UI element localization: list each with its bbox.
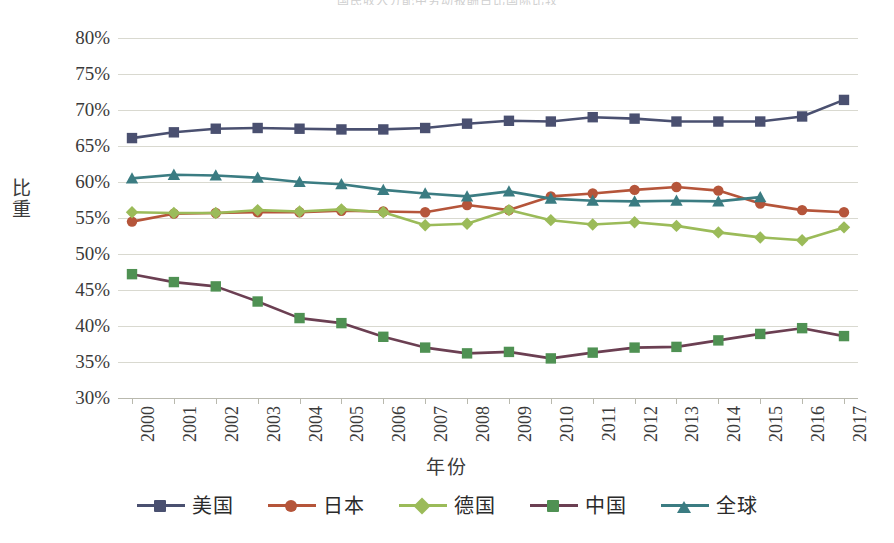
data-point-marker — [713, 116, 723, 126]
x-axis-tick — [844, 398, 845, 404]
data-point-marker — [294, 313, 304, 323]
data-point-marker — [713, 335, 723, 345]
data-point-marker — [420, 342, 430, 352]
data-point-marker — [839, 331, 849, 341]
y-axis-title: 比重 — [6, 178, 33, 220]
x-axis-tick-label: 2001 — [181, 406, 199, 442]
series-中国 — [127, 269, 849, 364]
x-axis-tick-label: 2011 — [600, 406, 618, 441]
x-axis-tick-label: 2002 — [223, 406, 241, 442]
y-axis-tick-label: 70% — [52, 100, 110, 119]
legend-marker-triangle-icon — [677, 501, 691, 513]
data-point-marker — [335, 203, 347, 215]
x-axis-tick-label: 2004 — [307, 406, 325, 442]
data-point-marker — [754, 231, 766, 243]
data-point-marker — [336, 124, 346, 134]
legend-item-中国[interactable]: 中国 — [530, 490, 627, 519]
series-美国 — [127, 95, 849, 144]
x-axis-tick-label: 2017 — [851, 406, 869, 442]
data-point-marker — [336, 318, 346, 328]
x-axis-tick-label: 2006 — [390, 406, 408, 442]
data-point-marker — [713, 185, 723, 195]
data-point-marker — [378, 124, 388, 134]
x-axis-tick-label: 2016 — [809, 406, 827, 442]
y-axis-tick-label: 45% — [52, 280, 110, 299]
line-chart: 国民收入分配中劳动报酬占比国际比较 比重 80%75%70%65%60%55%5… — [0, 0, 894, 543]
data-point-marker — [588, 112, 598, 122]
data-point-marker — [839, 95, 849, 105]
data-point-marker — [503, 204, 515, 216]
data-point-marker — [629, 113, 639, 123]
data-point-marker — [127, 269, 137, 279]
data-point-marker — [461, 218, 473, 230]
data-point-marker — [629, 185, 639, 195]
x-axis-tick-label: 2014 — [725, 406, 743, 442]
x-axis-tick — [593, 398, 594, 404]
data-point-marker — [504, 347, 514, 357]
x-axis-tick — [467, 398, 468, 404]
x-axis-tick — [174, 398, 175, 404]
data-point-marker — [126, 206, 138, 218]
data-point-marker — [838, 221, 850, 233]
x-axis-tick — [635, 398, 636, 404]
legend-item-全球[interactable]: 全球 — [661, 490, 758, 519]
data-point-marker — [378, 332, 388, 342]
x-axis-tick — [216, 398, 217, 404]
x-axis-tick-label: 2008 — [474, 406, 492, 442]
data-point-marker — [293, 205, 305, 217]
data-point-marker — [588, 347, 598, 357]
x-axis-tick-label: 2003 — [265, 406, 283, 442]
data-point-marker — [797, 323, 807, 333]
data-point-marker — [252, 296, 262, 306]
series-line — [132, 100, 844, 138]
x-axis-tick-label: 2010 — [558, 406, 576, 442]
data-point-marker — [211, 124, 221, 134]
y-axis-tick-label: 75% — [52, 64, 110, 83]
data-point-marker — [462, 348, 472, 358]
x-axis-tick — [760, 398, 761, 404]
x-axis-tick-label: 2015 — [767, 406, 785, 442]
data-point-marker — [797, 111, 807, 121]
data-point-marker — [671, 116, 681, 126]
y-axis-tick-label: 35% — [52, 352, 110, 371]
legend-label: 美国 — [192, 490, 234, 519]
plot-area — [118, 38, 858, 398]
legend-item-日本[interactable]: 日本 — [268, 490, 365, 519]
series-line — [132, 209, 844, 240]
y-axis-tick-label: 60% — [52, 172, 110, 191]
x-axis-line — [118, 398, 858, 399]
legend-swatch-icon — [661, 497, 709, 513]
data-point-marker — [629, 342, 639, 352]
legend-marker-square-icon — [547, 500, 559, 512]
legend-item-德国[interactable]: 德国 — [399, 490, 496, 519]
x-axis-tick-label: 2012 — [642, 406, 660, 442]
data-point-marker — [797, 205, 807, 215]
x-axis-tick — [132, 398, 133, 404]
x-axis-tick — [300, 398, 301, 404]
legend-marker-diamond-icon — [413, 497, 430, 514]
legend-label: 德国 — [454, 490, 496, 519]
legend-marker-square-icon — [154, 500, 166, 512]
legend-label: 中国 — [585, 490, 627, 519]
chart-legend: 美国日本德国中国全球 — [0, 490, 894, 519]
y-axis-tick-label: 50% — [52, 244, 110, 263]
data-point-marker — [419, 219, 431, 231]
x-axis-tick — [676, 398, 677, 404]
series-line — [132, 274, 844, 358]
data-point-marker — [168, 207, 180, 219]
data-point-marker — [839, 207, 849, 217]
x-axis-tick-label: 2007 — [432, 406, 450, 442]
x-axis-tick — [425, 398, 426, 404]
data-point-marker — [545, 214, 557, 226]
series-德国 — [126, 203, 850, 246]
series-svg — [118, 38, 858, 398]
x-axis-tick — [718, 398, 719, 404]
data-point-marker — [587, 218, 599, 230]
data-point-marker — [127, 133, 137, 143]
legend-item-美国[interactable]: 美国 — [137, 490, 234, 519]
x-axis-tick-label: 2013 — [683, 406, 701, 442]
data-point-marker — [546, 116, 556, 126]
x-axis-tick — [551, 398, 552, 404]
y-axis-tick-labels: 80%75%70%65%60%55%50%45%40%35%30% — [48, 38, 110, 398]
legend-swatch-icon — [399, 497, 447, 513]
